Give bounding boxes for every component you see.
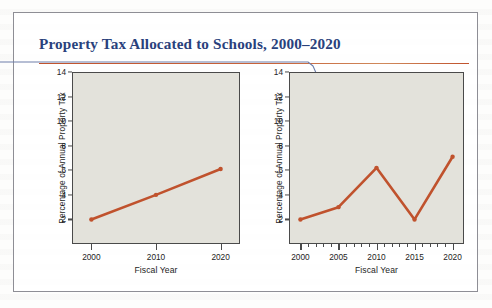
data-point-marker (89, 217, 93, 221)
data-point-marker (298, 217, 302, 221)
data-point-marker (374, 166, 378, 170)
figure-title: Property Tax Allocated to Schools, 2000–… (39, 35, 341, 53)
data-point-marker (412, 217, 416, 221)
x-axis-label-left: Fiscal Year (72, 265, 240, 275)
data-point-marker (450, 155, 454, 159)
series-line-right (253, 66, 473, 256)
data-point-marker (154, 193, 158, 197)
data-point-marker (336, 205, 340, 209)
title-rule-divider (39, 63, 469, 64)
x-axis-label-right: Fiscal Year (289, 265, 464, 275)
chart-right: Percentage of Annual Property Tax 246810… (253, 66, 468, 276)
